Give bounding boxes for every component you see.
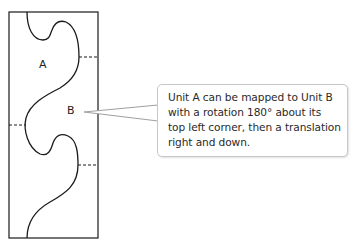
callout-pointer xyxy=(84,105,158,121)
callout-line-4: right and down. xyxy=(168,135,339,150)
callout-line-3: top left corner, then a translation xyxy=(168,120,339,135)
callout-box: Unit A can be mapped to Unit B with a ro… xyxy=(157,84,348,157)
dividing-curve xyxy=(25,12,79,238)
callout-line-2: with a rotation 180° about its xyxy=(168,105,339,120)
unit-a-label: A xyxy=(39,58,47,71)
callout-line-1: Unit A can be mapped to Unit B xyxy=(168,90,339,105)
unit-b-label: B xyxy=(67,104,75,117)
strip-border xyxy=(9,12,98,238)
